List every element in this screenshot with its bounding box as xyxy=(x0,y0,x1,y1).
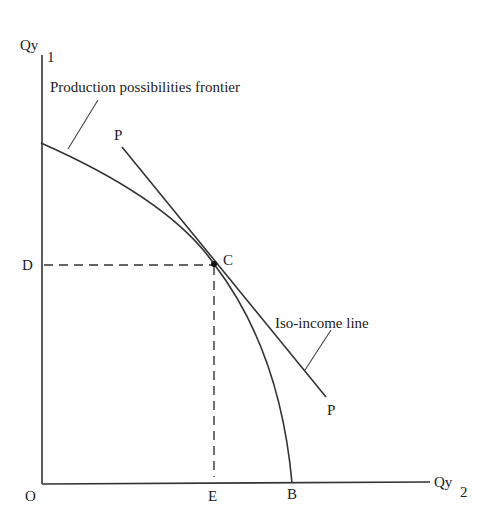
label-c: C xyxy=(223,253,233,268)
label-p-top: P xyxy=(114,128,122,143)
production-possibilities-frontier-curve xyxy=(41,143,292,483)
iso-leader-line xyxy=(305,330,331,370)
label-b: B xyxy=(287,487,297,502)
label-e: E xyxy=(208,489,217,504)
iso-income-line xyxy=(122,147,326,397)
point-c-marker xyxy=(211,261,217,267)
y-axis-subscript: 1 xyxy=(47,50,55,65)
iso-income-annotation: Iso-income line xyxy=(275,316,369,331)
y-axis-label: Qy xyxy=(20,38,38,53)
x-axis-label: Qy xyxy=(434,475,452,490)
x-axis xyxy=(42,482,430,484)
x-axis-subscript: 2 xyxy=(460,485,468,500)
label-d: D xyxy=(22,258,33,273)
label-origin: O xyxy=(25,489,36,504)
diagram: Qy 1 Production possibilities frontier P… xyxy=(0,0,488,524)
ppf-annotation: Production possibilities frontier xyxy=(50,80,240,95)
label-p-bottom: P xyxy=(327,403,335,418)
ppf-leader-line xyxy=(68,100,98,149)
